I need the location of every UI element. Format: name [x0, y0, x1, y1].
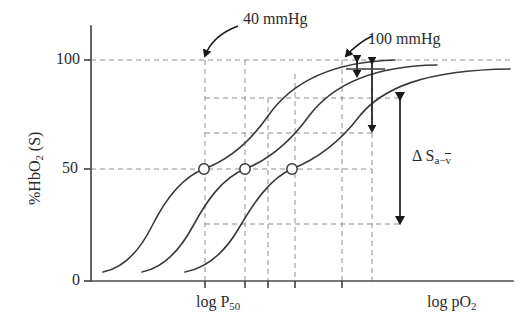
reference-grid — [91, 60, 512, 281]
y-tick-marks — [84, 60, 91, 281]
p50-marker-1 — [199, 164, 209, 174]
leader-arrow-40mmHg — [205, 26, 238, 56]
y-tick-label-0: 0 — [72, 271, 80, 289]
y-axis-label: %HbO2 (S) — [26, 132, 45, 205]
delta-symbol: Δ — [412, 147, 422, 164]
figure-container: 100 50 0 %HbO2 (S) log P50 log pO2 40 mm… — [0, 0, 525, 331]
annotation-100mmHg: 100 mmHg — [368, 30, 440, 48]
y-axis-label-prefix: %HbO — [26, 161, 43, 205]
x-axis-label-sub: 2 — [471, 300, 476, 312]
y-axis-label-suffix: (S) — [26, 132, 43, 156]
annotation-delta-sa-v: Δ Sa−v — [412, 147, 451, 166]
y-tick-label-100: 100 — [56, 50, 80, 68]
x-axis-label: log pO2 — [427, 293, 476, 312]
x-axis-label-main: log pO — [427, 293, 471, 310]
p50-marker-3 — [287, 164, 297, 174]
y-axis-label-sub: 2 — [33, 155, 45, 160]
x-p50-main: log P — [196, 293, 229, 310]
curve-right-shifted-100mmHg — [185, 69, 510, 272]
delta-subscript: a−v — [434, 154, 450, 166]
y-tick-label-50: 50 — [62, 159, 78, 177]
annotation-40mmHg: 40 mmHg — [243, 10, 307, 28]
delta-sub-v-bar: v — [445, 154, 450, 166]
x-p50-label: log P50 — [196, 293, 240, 312]
x-tick-marks — [205, 281, 342, 288]
p50-marker-2 — [240, 164, 250, 174]
x-p50-sub: 50 — [229, 300, 240, 312]
